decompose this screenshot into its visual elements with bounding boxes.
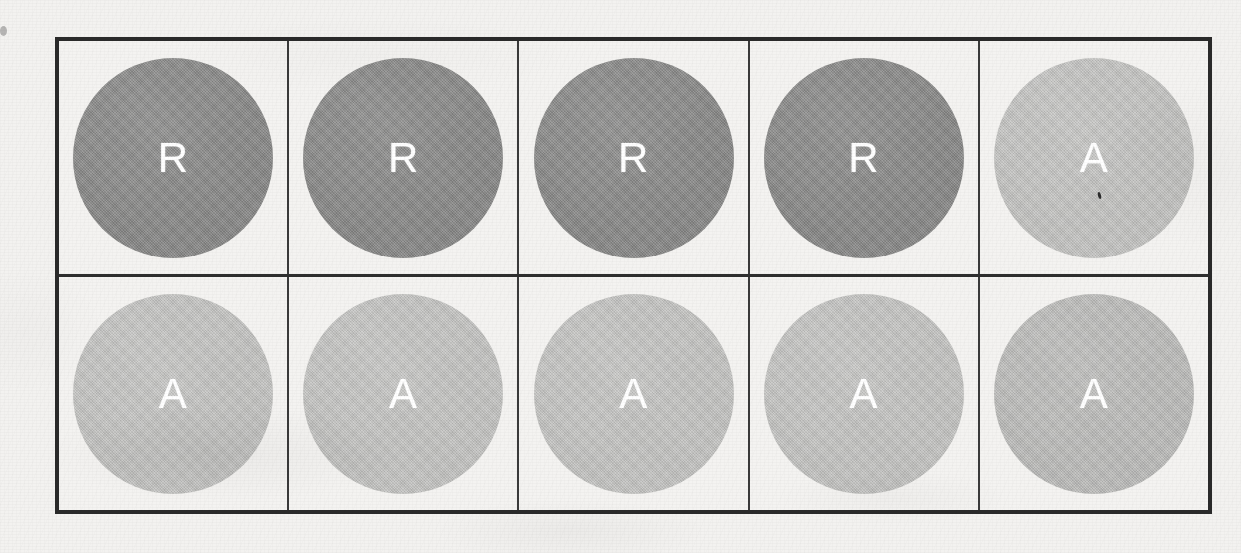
table-cell-r1c3[interactable]: R [517, 41, 747, 274]
table-cell-r1c2[interactable]: R [287, 41, 517, 274]
table-row: A A A A A [59, 274, 1208, 510]
table-cell-r2c3[interactable]: A [517, 277, 747, 510]
token-label: A [1080, 373, 1109, 415]
token-circle[interactable]: R [764, 58, 964, 258]
table-cell-r2c4[interactable]: A [748, 277, 978, 510]
table-cell-r2c1[interactable]: A [59, 277, 287, 510]
paper-edge-mark [0, 26, 7, 36]
token-circle[interactable]: R [534, 58, 734, 258]
table-cell-r2c2[interactable]: A [287, 277, 517, 510]
token-label: R [388, 137, 419, 179]
table-row: R R R R A [59, 41, 1208, 274]
table-cell-r1c1[interactable]: R [59, 41, 287, 274]
token-label: R [618, 137, 649, 179]
token-circle[interactable]: A [994, 294, 1194, 494]
token-label: A [389, 373, 418, 415]
token-circle[interactable]: A [303, 294, 503, 494]
token-circle[interactable]: A [534, 294, 734, 494]
token-label: A [1080, 137, 1109, 179]
token-circle[interactable]: R [73, 58, 273, 258]
circle-grid-table: R R R R A A [55, 37, 1212, 514]
token-label: A [159, 373, 188, 415]
token-circle[interactable]: A [764, 294, 964, 494]
table-cell-r2c5[interactable]: A [978, 277, 1208, 510]
token-label: A [849, 373, 878, 415]
ink-speck [1097, 191, 1102, 199]
token-label: A [619, 373, 648, 415]
token-label: R [848, 137, 879, 179]
token-circle[interactable]: A [994, 58, 1194, 258]
table-cell-r1c4[interactable]: R [748, 41, 978, 274]
token-circle[interactable]: R [303, 58, 503, 258]
token-circle[interactable]: A [73, 294, 273, 494]
table-cell-r1c5[interactable]: A [978, 41, 1208, 274]
token-label: R [158, 137, 189, 179]
